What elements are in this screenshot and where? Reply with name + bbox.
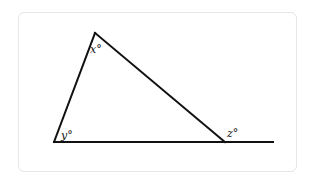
angle-label-y: y° [60,129,73,142]
right-side [95,33,225,142]
triangle-diagram: x° y° z° [0,0,315,179]
angle-label-x: x° [90,43,102,56]
angle-label-z: z° [226,127,238,140]
left-side [54,33,95,142]
